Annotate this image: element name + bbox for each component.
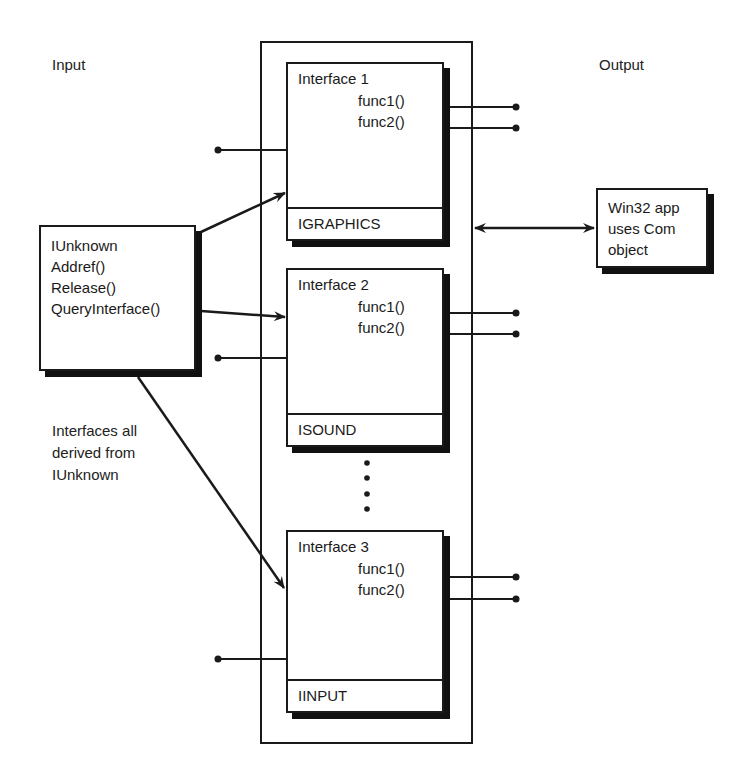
output-connectors-3 (449, 574, 520, 603)
interface-name: IINPUT (288, 679, 442, 711)
interface-1-box: Interface 1 func1() func2() IGRAPHICS (286, 62, 444, 241)
output-connectors-2 (449, 310, 520, 338)
function-list: func1() func2() (358, 90, 405, 132)
input-connector-1 (215, 147, 288, 154)
interface-title: Interface 2 (298, 276, 369, 293)
queryinterface-method: QueryInterface() (51, 298, 184, 319)
arrow-to-interface-1 (201, 193, 285, 232)
input-label: Input (52, 55, 85, 75)
derived-note-line: derived from (52, 442, 137, 464)
iunknown-box: IUnknown Addref() Release() QueryInterfa… (39, 225, 196, 371)
iunknown-title: IUnknown (51, 235, 184, 256)
function-list: func1() func2() (358, 558, 405, 600)
client-line: Win32 app (608, 197, 696, 218)
addref-method: Addref() (51, 256, 184, 277)
input-connector-2 (215, 355, 288, 362)
function-item: func1() (358, 90, 405, 111)
interface-name: IGRAPHICS (288, 207, 442, 239)
win32-client-box: Win32 app uses Com object (596, 188, 708, 268)
function-item: func1() (358, 296, 405, 317)
input-connector-3 (215, 656, 288, 663)
client-line: object (608, 239, 696, 260)
interface-3-box: Interface 3 func1() func2() IINPUT (286, 530, 444, 713)
output-connectors-1 (449, 104, 520, 132)
function-list: func1() func2() (358, 296, 405, 338)
interface-title: Interface 1 (298, 70, 369, 87)
function-item: func2() (358, 317, 405, 338)
interface-title: Interface 3 (298, 538, 369, 555)
function-item: func1() (358, 558, 405, 579)
interface-name: ISOUND (288, 413, 442, 445)
interface-2-box: Interface 2 func1() func2() ISOUND (286, 268, 444, 447)
function-item: func2() (358, 111, 405, 132)
com-object-diagram: Input Output IUnknown Addref() Release()… (0, 0, 738, 782)
derived-note-line: IUnknown (52, 464, 137, 486)
release-method: Release() (51, 277, 184, 298)
derived-note-line: Interfaces all (52, 420, 137, 442)
derived-note: Interfaces all derived from IUnknown (52, 420, 137, 486)
arrow-to-interface-2 (201, 311, 285, 317)
client-line: uses Com (608, 218, 696, 239)
output-label: Output (599, 55, 644, 75)
function-item: func2() (358, 579, 405, 600)
arrow-to-interface-3 (138, 377, 284, 588)
